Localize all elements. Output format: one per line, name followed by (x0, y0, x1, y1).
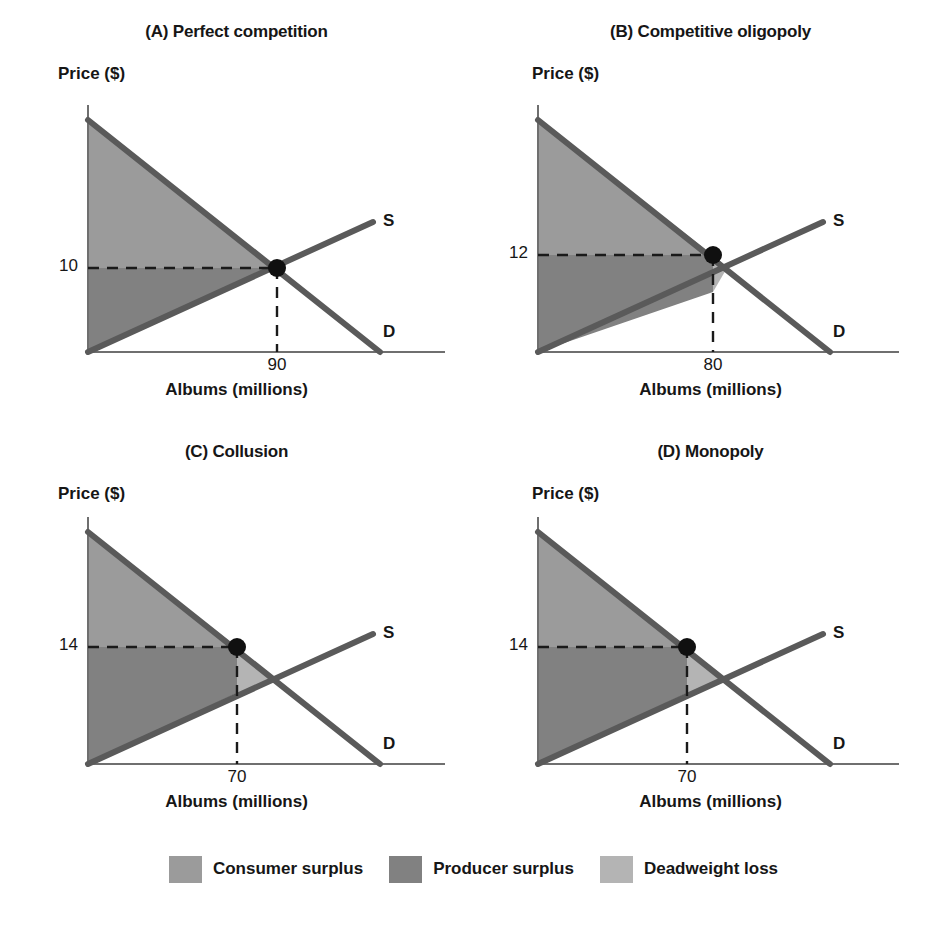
legend-swatch-icon (389, 856, 422, 883)
demand-curve-label: D (833, 322, 845, 342)
legend-item-deadweight-loss: Deadweight loss (600, 856, 778, 883)
demand-curve-label: D (383, 322, 395, 342)
quantity-tick-label: 70 (212, 767, 262, 787)
panel-competitive-oligopoly: (B) Competitive oligopoly Price ($) 12 8… (474, 0, 947, 420)
legend-label: Consumer surplus (213, 859, 363, 879)
x-axis-label: Albums (millions) (474, 380, 947, 400)
demand-curve-label: D (833, 734, 845, 754)
supply-curve-label: S (383, 623, 394, 643)
legend-label: Deadweight loss (644, 859, 778, 879)
equilibrium-dot (228, 638, 246, 656)
legend-swatch-icon (169, 856, 202, 883)
supply-curve-label: S (833, 623, 844, 643)
price-tick-label: 14 (488, 635, 528, 655)
price-tick-label: 12 (488, 243, 528, 263)
equilibrium-dot (704, 246, 722, 264)
panel-collusion: (C) Collusion Price ($) 14 70 S D Albums… (0, 420, 473, 840)
quantity-tick-label: 70 (662, 767, 712, 787)
x-axis-label: Albums (millions) (0, 380, 473, 400)
supply-curve-label: S (833, 211, 844, 231)
supply-curve-label: S (383, 211, 394, 231)
legend: Consumer surplus Producer surplus Deadwe… (0, 846, 947, 892)
legend-item-consumer-surplus: Consumer surplus (169, 856, 363, 883)
legend-label: Producer surplus (433, 859, 574, 879)
figure-container: (A) Perfect competition Price ($) 10 90 … (0, 0, 947, 938)
x-axis-label: Albums (millions) (0, 792, 473, 812)
equilibrium-dot (268, 259, 286, 277)
quantity-tick-label: 90 (252, 355, 302, 375)
quantity-tick-label: 80 (688, 355, 738, 375)
panel-perfect-competition: (A) Perfect competition Price ($) 10 90 … (0, 0, 473, 420)
price-tick-label: 14 (38, 635, 78, 655)
x-axis-label: Albums (millions) (474, 792, 947, 812)
equilibrium-dot (678, 638, 696, 656)
plot-area-a (0, 0, 473, 420)
price-tick-label: 10 (38, 256, 78, 276)
demand-curve-label: D (383, 734, 395, 754)
legend-swatch-icon (600, 856, 633, 883)
panel-monopoly: (D) Monopoly Price ($) 14 70 S D Albums … (474, 420, 947, 840)
legend-item-producer-surplus: Producer surplus (389, 856, 574, 883)
